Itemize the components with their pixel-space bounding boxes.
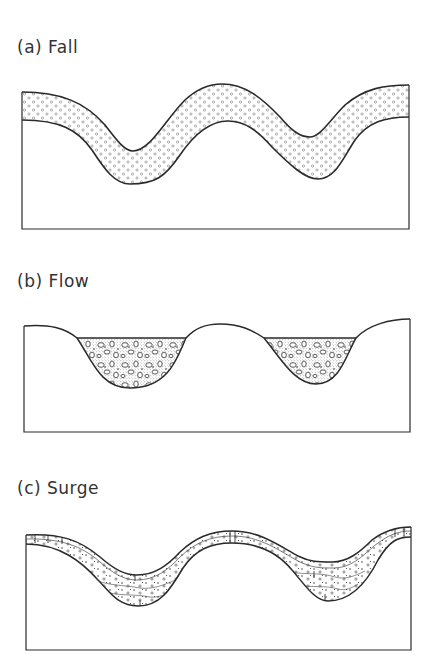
deposit-diagram bbox=[0, 0, 441, 667]
fall-deposit-layer bbox=[22, 84, 409, 184]
surge-deposit-layer bbox=[20, 520, 420, 615]
panel-b-flow bbox=[24, 319, 410, 432]
flow-frame bbox=[24, 319, 410, 432]
panel-c-surge bbox=[20, 520, 420, 650]
panel-a-fall bbox=[22, 84, 409, 229]
flow-deposit-trough-1 bbox=[70, 335, 195, 395]
flow-ground-surface bbox=[24, 319, 410, 388]
flow-deposit-trough-2 bbox=[258, 335, 363, 390]
